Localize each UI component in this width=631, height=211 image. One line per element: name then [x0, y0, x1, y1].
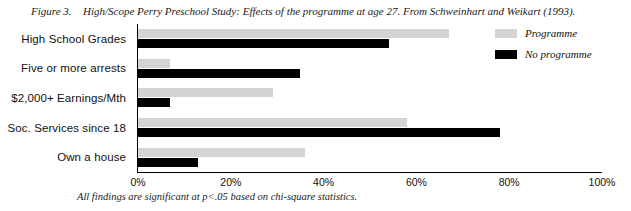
legend-label: Programme [525, 27, 577, 39]
category-label: High School Grades [0, 33, 132, 45]
bar-programme [138, 148, 305, 157]
figure-caption: Figure 3.High/Scope Perry Preschool Stud… [31, 5, 575, 18]
figure-number: Figure 3. [31, 5, 83, 18]
bar-no-programme [138, 158, 198, 167]
category-label: Five or more arrests [0, 62, 132, 74]
bar-no-programme [138, 69, 300, 78]
x-tick-label: 60% [406, 176, 427, 188]
bar-group [138, 117, 602, 139]
bar-no-programme [138, 39, 389, 48]
legend-item: Programme [495, 25, 625, 41]
chart-footnote: All findings are significant at p<.05 ba… [77, 191, 357, 202]
bar-programme [138, 59, 170, 68]
legend-swatch-icon [495, 50, 517, 59]
bar-no-programme [138, 128, 500, 137]
bar-no-programme [138, 98, 170, 107]
bar-programme [138, 118, 407, 127]
figure-caption-text: High/Scope Perry Preschool Study: Effect… [83, 5, 575, 17]
bar-group [138, 146, 602, 168]
x-tick-label: 80% [499, 176, 520, 188]
x-axis-tick-labels: 0%20%40%60%80%100% [0, 174, 631, 190]
legend-label: No programme [525, 48, 592, 60]
bar-programme [138, 29, 449, 38]
category-label: Own a house [0, 151, 132, 163]
legend-item: No programme [495, 46, 625, 62]
x-tick-label: 0% [130, 176, 145, 188]
category-label: $2,000+ Earnings/Mth [0, 92, 132, 104]
bar-group [138, 87, 602, 109]
category-axis-labels: High School GradesFive or more arrests$2… [0, 24, 132, 172]
category-label: Soc. Services since 18 [0, 122, 132, 134]
x-tick-label: 20% [220, 176, 241, 188]
x-tick-label: 100% [589, 176, 616, 188]
legend-swatch-icon [495, 29, 517, 38]
chart-legend: ProgrammeNo programme [495, 25, 625, 67]
bar-programme [138, 88, 273, 97]
x-tick-label: 40% [313, 176, 334, 188]
x-axis-line [137, 172, 602, 173]
